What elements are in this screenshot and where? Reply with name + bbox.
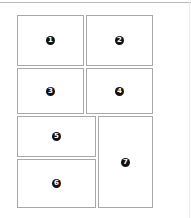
panel-1: 1: [17, 15, 84, 66]
panel-3: 3: [17, 68, 84, 114]
number-marker-5: 5: [52, 132, 61, 141]
panel-5: 5: [17, 116, 96, 157]
panel-6: 6: [17, 159, 96, 208]
number-marker-4: 4: [115, 87, 124, 96]
number-marker-2: 2: [115, 36, 124, 45]
right-divider-line: [189, 2, 190, 218]
panel-7: 7: [98, 116, 153, 208]
top-divider-line: [0, 2, 191, 3]
number-marker-6: 6: [52, 179, 61, 188]
number-marker-7: 7: [121, 158, 130, 167]
number-marker-3: 3: [46, 87, 55, 96]
panel-4: 4: [86, 68, 153, 114]
number-marker-1: 1: [46, 36, 55, 45]
panel-2: 2: [86, 15, 153, 66]
